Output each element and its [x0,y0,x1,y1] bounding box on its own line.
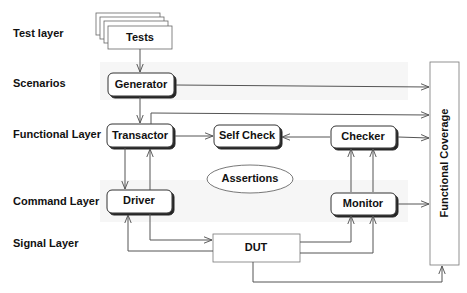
assertions-label: Assertions [222,172,279,184]
layer-label-test: Test layer [13,27,64,39]
driver-node: Driver [107,190,172,213]
tests-node: Tests [96,13,172,49]
edge-transactor-coverage [151,113,429,124]
generator-label: Generator [115,78,168,90]
checker-node: Checker [331,126,396,148]
self-check-node: Self Check [214,125,280,147]
layer-label-command: Command Layer [13,195,100,207]
testbench-diagram: Test layer Scenarios Functional Layer Co… [0,0,467,293]
assertions-node: Assertions [207,165,293,193]
tests-label: Tests [126,31,154,43]
functional-coverage-node: Functional Coverage [430,62,459,265]
generator-node: Generator [108,73,174,96]
dut-node: DUT [213,234,300,262]
transactor-node: Transactor [107,124,173,147]
dut-label: DUT [245,241,268,253]
checker-label: Checker [341,130,385,142]
layer-label-signal: Signal Layer [13,237,79,249]
edge-dut-coverage [253,262,442,282]
driver-label: Driver [123,194,156,206]
monitor-node: Monitor [331,193,396,215]
edge-checker-coverage [398,137,429,138]
layer-label-functional: Functional Layer [13,128,102,140]
layer-label-scenarios: Scenarios [13,77,66,89]
self-check-label: Self Check [219,129,276,141]
functional-coverage-label: Functional Coverage [438,109,450,218]
transactor-label: Transactor [112,129,169,141]
monitor-label: Monitor [343,197,384,209]
